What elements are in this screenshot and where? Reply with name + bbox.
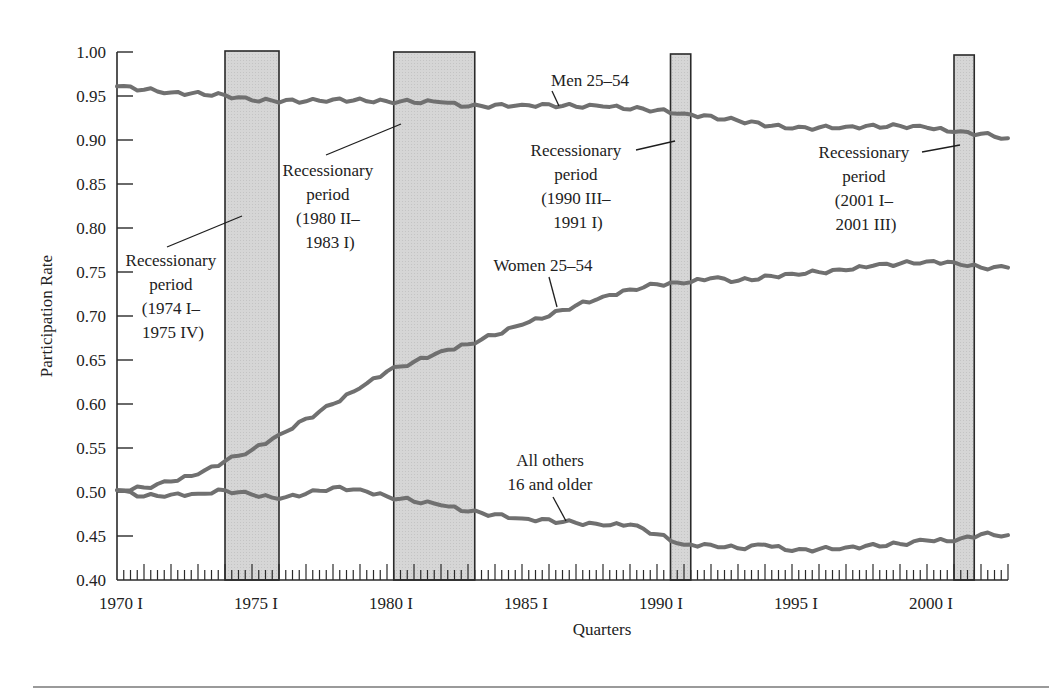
- y-tick-label: 0.95: [76, 87, 106, 106]
- x-tick-label: 1985 I: [504, 594, 548, 613]
- recession-bar: [394, 52, 475, 580]
- axes: 0.400.450.500.550.600.650.700.750.800.85…: [76, 43, 1008, 613]
- rec1-label: Recessionary period (1974 I– 1975 IV): [126, 251, 221, 342]
- y-tick-label: 0.60: [76, 395, 106, 414]
- others-label-line2: 16 and older: [508, 475, 593, 494]
- participation-rate-chart: 0.400.450.500.550.600.650.700.750.800.85…: [0, 0, 1049, 689]
- x-tick-label: 1990 I: [639, 594, 683, 613]
- y-tick-label: 0.55: [76, 439, 106, 458]
- leader-men: [552, 91, 559, 106]
- x-tick-label: 1970 I: [99, 594, 143, 613]
- x-tick-label: 1995 I: [774, 594, 818, 613]
- rec2-label: Recessionary period (1980 II– 1983 I): [283, 161, 378, 252]
- y-tick-label: 1.00: [76, 43, 106, 62]
- y-tick-label: 0.85: [76, 175, 106, 194]
- leader-rec2: [326, 124, 401, 155]
- y-tick-label: 0.80: [76, 219, 106, 238]
- recession-bar: [671, 54, 691, 580]
- bottom-rule: [33, 686, 1049, 688]
- y-tick-label: 0.90: [76, 131, 106, 150]
- leader-women: [549, 277, 557, 307]
- x-tick-label: 1980 I: [369, 594, 413, 613]
- rec4-label: Recessionary period (2001 I– 2001 III): [819, 143, 914, 234]
- x-tick-label: 1975 I: [234, 594, 278, 613]
- rec3-label: Recessionary period (1990 III– 1991 I): [531, 141, 626, 232]
- men-label: Men 25–54: [551, 71, 629, 90]
- y-tick-label: 0.70: [76, 307, 106, 326]
- y-tick-label: 0.65: [76, 351, 106, 370]
- x-tick-label: 2000 I: [909, 594, 953, 613]
- leader-others: [553, 497, 566, 521]
- y-tick-label: 0.45: [76, 527, 106, 546]
- y-axis-title: Participation Rate: [37, 255, 56, 377]
- x-axis-title: Quarters: [573, 620, 632, 639]
- leader-rec3: [636, 141, 675, 150]
- y-tick-label: 0.50: [76, 483, 106, 502]
- y-tick-label: 0.40: [76, 571, 106, 590]
- recession-bars: [225, 51, 974, 580]
- others-label-line1: All others: [516, 451, 584, 470]
- women-label: Women 25–54: [493, 256, 593, 275]
- recession-bar: [225, 51, 279, 580]
- y-tick-label: 0.75: [76, 263, 106, 282]
